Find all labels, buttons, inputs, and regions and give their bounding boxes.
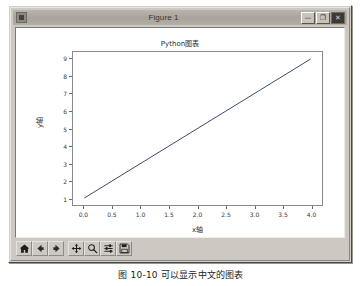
x-tick-label: 3.0: [250, 211, 260, 218]
y-tick-mark: [69, 58, 72, 59]
y-tick-label: 5: [50, 125, 67, 132]
plot-axes: [72, 51, 323, 206]
x-tick-label: 1.5: [164, 211, 174, 218]
x-tick-mark: [112, 206, 113, 209]
arrow-right-icon: [51, 243, 62, 254]
window-inner-frame: Figure 1 — ❐ ✕ Python图表: [10, 7, 350, 261]
x-tick-label: 0.0: [79, 211, 89, 218]
maximize-icon: ❐: [317, 14, 329, 21]
x-tick-mark: [140, 206, 141, 209]
x-tick-label: 3.5: [278, 211, 288, 218]
arrow-left-icon: [35, 243, 46, 254]
y-tick-mark: [69, 199, 72, 200]
data-series-line: [84, 59, 310, 198]
y-tick-label: 1: [50, 195, 67, 202]
save-button[interactable]: [116, 241, 132, 256]
x-tick-mark: [283, 206, 284, 209]
y-tick-mark: [69, 164, 72, 165]
maximize-button[interactable]: ❐: [316, 12, 330, 24]
x-axis-label: x轴: [72, 224, 323, 234]
x-tick-mark: [83, 206, 84, 209]
figure-window-icon: [16, 12, 27, 23]
y-tick-mark: [69, 111, 72, 112]
page-root: Figure 1 — ❐ ✕ Python图表: [0, 0, 362, 286]
sliders-icon: [103, 243, 114, 254]
pan-button[interactable]: [68, 241, 84, 256]
y-axis-label: y轴: [34, 117, 44, 128]
y-tick-mark: [69, 76, 72, 77]
plot-line-svg: [73, 52, 322, 205]
y-tick-label: 9: [50, 55, 67, 62]
y-tick-mark: [69, 129, 72, 130]
navigation-toolbar: [15, 240, 345, 257]
forward-button[interactable]: [48, 241, 64, 256]
back-button[interactable]: [32, 241, 48, 256]
pan-move-icon: [71, 243, 82, 254]
figure-caption: 图 10-10 可以显示中文的图表: [0, 268, 362, 281]
y-tick-label: 6: [50, 107, 67, 114]
zoom-button[interactable]: [84, 241, 100, 256]
minimize-icon: —: [302, 14, 314, 21]
chart-title: Python图表: [16, 38, 344, 48]
y-tick-mark: [69, 181, 72, 182]
magnifier-icon: [87, 243, 98, 254]
y-tick-label: 4: [50, 143, 67, 150]
y-tick-mark: [69, 93, 72, 94]
x-tick-label: 1.0: [136, 211, 146, 218]
window-title: Figure 1: [27, 13, 300, 22]
figure-canvas[interactable]: Python图表 x轴 y轴 0.00.51.01.52.02.53.03.54…: [15, 27, 345, 238]
floppy-disk-icon: [119, 243, 130, 254]
home-button[interactable]: [16, 241, 32, 256]
title-bar[interactable]: Figure 1 — ❐ ✕: [13, 10, 347, 25]
close-icon: ✕: [332, 14, 344, 21]
y-tick-label: 8: [50, 72, 67, 79]
x-tick-mark: [198, 206, 199, 209]
close-button[interactable]: ✕: [331, 12, 345, 24]
y-tick-label: 3: [50, 160, 67, 167]
y-tick-label: 7: [50, 90, 67, 97]
y-tick-label: 2: [50, 178, 67, 185]
x-tick-mark: [226, 206, 227, 209]
x-tick-label: 2.0: [193, 211, 203, 218]
figure-window: Figure 1 — ❐ ✕ Python图表: [8, 5, 352, 263]
y-tick-mark: [69, 146, 72, 147]
matplotlib-figure: Python图表 x轴 y轴 0.00.51.01.52.02.53.03.54…: [16, 28, 344, 237]
x-tick-mark: [169, 206, 170, 209]
minimize-button[interactable]: —: [301, 12, 315, 24]
home-icon: [19, 243, 30, 254]
x-tick-label: 0.5: [107, 211, 117, 218]
x-tick-mark: [255, 206, 256, 209]
x-tick-label: 2.5: [221, 211, 231, 218]
configure-subplots-button[interactable]: [100, 241, 116, 256]
x-tick-label: 4.0: [307, 211, 317, 218]
x-tick-mark: [312, 206, 313, 209]
